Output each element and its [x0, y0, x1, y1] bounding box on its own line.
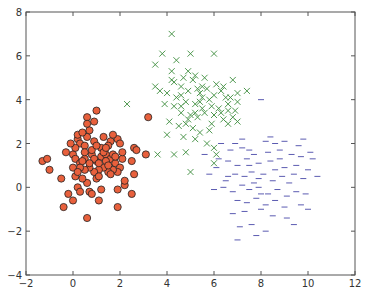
data-point	[91, 118, 98, 125]
data-point	[131, 171, 138, 178]
x-tick-label: 10	[302, 278, 315, 289]
data-point	[65, 190, 72, 197]
data-point	[67, 140, 74, 147]
data-point	[95, 160, 102, 167]
data-point	[128, 190, 135, 197]
data-point	[86, 160, 93, 167]
data-point	[93, 107, 100, 114]
data-point	[69, 197, 76, 204]
y-tick-label: 0	[16, 182, 22, 193]
x-tick-label: 6	[211, 278, 217, 289]
data-point	[84, 114, 91, 121]
data-point	[95, 173, 102, 180]
data-point	[145, 114, 152, 121]
data-point	[58, 175, 65, 182]
y-tick-label: −4	[7, 270, 22, 281]
data-point	[88, 190, 95, 197]
data-point	[107, 171, 114, 178]
x-tick-label: 2	[117, 278, 123, 289]
x-tick-label: 0	[70, 278, 76, 289]
data-point	[100, 133, 107, 140]
data-point	[76, 188, 83, 195]
data-point	[114, 186, 121, 193]
data-point	[142, 151, 149, 158]
data-point	[84, 214, 91, 221]
x-tick-label: 12	[349, 278, 362, 289]
data-point	[44, 155, 51, 162]
data-point	[79, 129, 86, 136]
data-point	[46, 166, 53, 173]
data-point	[98, 186, 105, 193]
data-point	[119, 149, 126, 156]
figure-background	[0, 0, 368, 297]
data-point	[119, 155, 126, 162]
data-point	[79, 175, 86, 182]
data-point	[79, 157, 86, 164]
data-point	[86, 127, 93, 134]
y-tick-label: 6	[16, 51, 22, 62]
data-point	[93, 142, 100, 149]
data-point	[105, 162, 112, 169]
y-tick-label: 2	[16, 139, 22, 150]
data-point	[109, 131, 116, 138]
y-tick-label: 8	[16, 7, 22, 18]
y-tick-label: −2	[7, 226, 22, 237]
data-point	[114, 203, 121, 210]
data-point	[60, 203, 67, 210]
data-point	[116, 140, 123, 147]
data-point	[133, 146, 140, 153]
data-point	[81, 142, 88, 149]
y-tick-label: 4	[16, 95, 22, 106]
data-point	[62, 149, 69, 156]
x-tick-label: 4	[164, 278, 170, 289]
data-point	[102, 144, 109, 151]
data-point	[128, 157, 135, 164]
scatter-chart: −2024681012 −4−202468	[0, 0, 368, 297]
data-point	[112, 153, 119, 160]
data-point	[95, 197, 102, 204]
data-point	[84, 120, 91, 127]
data-point	[121, 177, 128, 184]
data-point	[81, 149, 88, 156]
data-point	[74, 168, 81, 175]
x-tick-label: 8	[258, 278, 264, 289]
